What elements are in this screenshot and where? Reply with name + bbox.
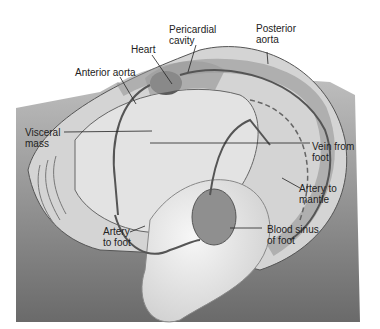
label-blood-sinus-of-foot: Blood sinus of foot (267, 224, 319, 246)
label-anterior-aorta: Anterior aorta (75, 67, 136, 78)
label-vein-from-foot: Vein from foot (312, 141, 354, 163)
clam-circulatory-diagram: Heart Pericardial cavity Posterior aorta… (0, 0, 380, 329)
label-pericardial-cavity: Pericardial cavity (169, 24, 216, 46)
label-artery-to-foot: Artery to foot (103, 226, 131, 248)
label-visceral-mass: Visceral mass (25, 127, 60, 149)
blood-sinus-of-foot (192, 189, 236, 245)
diagram-illustration (0, 0, 380, 329)
label-posterior-aorta: Posterior aorta (256, 23, 296, 45)
label-heart: Heart (131, 44, 155, 55)
label-artery-to-mantle: Artery to mantle (299, 183, 337, 205)
